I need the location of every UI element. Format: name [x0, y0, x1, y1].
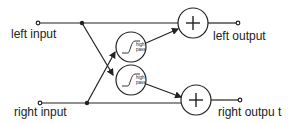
right-output-terminal [238, 98, 242, 102]
left-input-terminal [36, 21, 40, 25]
left-to-bottom-filter-wire [82, 23, 113, 75]
filter-top-label-2: pass [136, 47, 146, 52]
left-output-label: left output [213, 30, 266, 42]
top-filter-to-left-sum-wire [146, 29, 178, 43]
filter-bottom-label-2: pass [136, 80, 146, 85]
left-junction-dot [80, 21, 84, 25]
bottom-filter-to-right-sum-wire [146, 84, 181, 97]
right-input-label: right input [14, 106, 67, 118]
right-to-top-filter-wire [87, 52, 115, 103]
right-junction-dot [85, 101, 89, 105]
left-output-terminal [236, 21, 240, 25]
left-input-label: left input [11, 28, 56, 40]
crossfeed-diagram: high pass high pass left input right inp… [0, 0, 291, 124]
right-output-label: right outpu t [218, 106, 281, 118]
